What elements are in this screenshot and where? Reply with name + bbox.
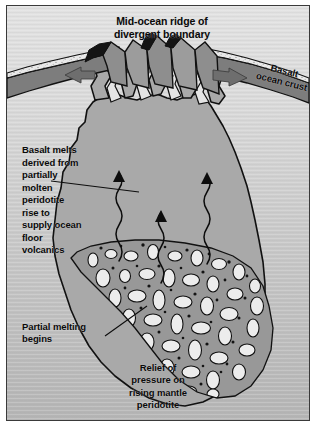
label-partial-melting-begins: Partial melting begins	[22, 321, 122, 346]
figure-title: Mid-ocean ridge of divergent boundary	[67, 15, 257, 41]
figure-page: Mid-ocean ridge of divergent boundary Ba…	[0, 0, 316, 426]
label-relief-of-pressure: Relief of pressure on rising mantle peri…	[106, 362, 210, 411]
figure-frame: Mid-ocean ridge of divergent boundary Ba…	[6, 5, 310, 421]
label-basalt-melts: Basalt melts derived from partially molt…	[22, 144, 102, 257]
